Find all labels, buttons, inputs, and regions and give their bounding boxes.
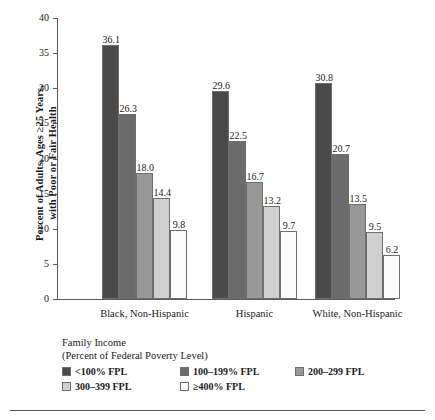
legend-items: <100% FPL100–199% FPL200–299 FPL300–399 … bbox=[62, 366, 407, 396]
y-axis-tick-mark bbox=[53, 159, 57, 160]
y-axis-tick-mark bbox=[53, 194, 57, 195]
bar-group: 29.622.516.713.29.7 bbox=[212, 18, 297, 299]
bar-value-label: 13.5 bbox=[349, 193, 367, 204]
bar[interactable]: 36.1 bbox=[102, 45, 119, 299]
bar-group: 30.820.713.59.56.2 bbox=[315, 18, 400, 299]
bar-value-label: 30.8 bbox=[315, 72, 333, 83]
legend-swatch bbox=[295, 367, 304, 376]
legend-label: 200–299 FPL bbox=[308, 366, 364, 377]
bottom-divider bbox=[10, 410, 425, 411]
plot-area: 0510152025303540 36.126.318.014.49.829.6… bbox=[57, 18, 395, 300]
legend-item[interactable]: ≥400% FPL bbox=[180, 381, 245, 392]
legend-swatch bbox=[62, 382, 71, 391]
bar-value-label: 36.1 bbox=[102, 34, 120, 45]
y-axis-tick-label: 0 bbox=[23, 294, 49, 304]
bar-value-label: 22.5 bbox=[229, 130, 247, 141]
legend-label: 100–199% FPL bbox=[193, 366, 259, 377]
y-axis-tick-label: 30 bbox=[23, 83, 49, 93]
y-axis-tick-mark bbox=[53, 264, 57, 265]
bar-value-label: 14.4 bbox=[153, 187, 171, 198]
bar[interactable]: 30.8 bbox=[315, 83, 332, 299]
bar[interactable]: 13.2 bbox=[263, 206, 280, 299]
y-axis-tick-mark bbox=[53, 299, 57, 300]
bar-value-label: 9.7 bbox=[283, 220, 296, 231]
y-axis-tick-label: 20 bbox=[23, 154, 49, 164]
legend-item[interactable]: <100% FPL bbox=[62, 366, 127, 377]
legend-label: <100% FPL bbox=[75, 366, 127, 377]
y-axis-tick-mark bbox=[53, 53, 57, 54]
legend-item[interactable]: 200–299 FPL bbox=[295, 366, 364, 377]
bar[interactable]: 13.5 bbox=[349, 204, 366, 299]
legend-label: ≥400% FPL bbox=[193, 381, 245, 392]
bar[interactable]: 16.7 bbox=[246, 182, 263, 299]
bar[interactable]: 6.2 bbox=[383, 255, 400, 299]
legend-swatch bbox=[180, 367, 189, 376]
bar-value-label: 9.5 bbox=[369, 221, 382, 232]
bar-value-label: 29.6 bbox=[212, 80, 230, 91]
x-axis-category-label: White, Non-Hispanic bbox=[280, 308, 435, 319]
y-axis-tick-label: 10 bbox=[23, 224, 49, 234]
legend-item[interactable]: 100–199% FPL bbox=[180, 366, 259, 377]
legend-title-line-2: (Percent of Federal Poverty Level) bbox=[62, 349, 407, 362]
bar[interactable]: 22.5 bbox=[229, 141, 246, 299]
y-axis-tick-mark bbox=[53, 88, 57, 89]
legend-swatch bbox=[62, 367, 71, 376]
y-axis-tick-mark bbox=[53, 18, 57, 19]
y-axis-tick-label: 25 bbox=[23, 118, 49, 128]
chart-figure: Percent of Adults, Ages ≥25 Years, with … bbox=[0, 0, 435, 420]
bar[interactable]: 26.3 bbox=[119, 114, 136, 299]
chart-legend: Family Income (Percent of Federal Povert… bbox=[62, 336, 407, 396]
bar[interactable]: 9.8 bbox=[170, 230, 187, 299]
bar[interactable]: 14.4 bbox=[153, 198, 170, 299]
y-axis-tick-label: 15 bbox=[23, 189, 49, 199]
bar-value-label: 20.7 bbox=[332, 143, 350, 154]
y-axis-tick-mark bbox=[53, 123, 57, 124]
bar-value-label: 18.0 bbox=[136, 162, 154, 173]
y-axis-tick-label: 40 bbox=[23, 13, 49, 23]
y-axis-tick-label: 5 bbox=[23, 259, 49, 269]
legend-title-line-1: Family Income bbox=[62, 336, 407, 349]
legend-item[interactable]: 300–399 FPL bbox=[62, 381, 131, 392]
legend-label: 300–399 FPL bbox=[75, 381, 131, 392]
y-axis-tick-mark bbox=[53, 229, 57, 230]
bar-value-label: 16.7 bbox=[246, 171, 264, 182]
legend-swatch bbox=[180, 382, 189, 391]
bar-value-label: 13.2 bbox=[263, 195, 281, 206]
bar[interactable]: 9.7 bbox=[280, 231, 297, 299]
bar[interactable]: 9.5 bbox=[366, 232, 383, 299]
bar-value-label: 9.8 bbox=[173, 219, 186, 230]
bar-group: 36.126.318.014.49.8 bbox=[102, 18, 187, 299]
bar[interactable]: 20.7 bbox=[332, 154, 349, 299]
bar-value-label: 6.2 bbox=[386, 244, 399, 255]
y-axis-tick-label: 35 bbox=[23, 48, 49, 58]
y-axis-spine bbox=[57, 18, 58, 300]
x-axis-spine bbox=[57, 299, 395, 300]
bar[interactable]: 29.6 bbox=[212, 91, 229, 299]
bar-value-label: 26.3 bbox=[119, 103, 137, 114]
bar[interactable]: 18.0 bbox=[136, 173, 153, 299]
